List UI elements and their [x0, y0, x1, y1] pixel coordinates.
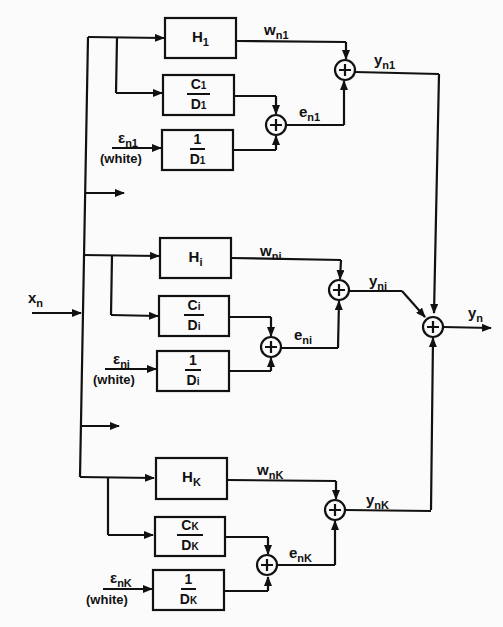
white-note-1: (white) [100, 152, 142, 165]
e-label-K: enK [289, 545, 312, 561]
y-label-K: ynK [366, 492, 389, 508]
output-arrow [443, 327, 491, 328]
block-inv-DK-label: 1DK [153, 572, 224, 606]
w-label-i: wni [260, 243, 281, 259]
output-label: yn [468, 305, 483, 321]
w-label-K: wnK [257, 462, 283, 478]
y-label-1: yn1 [374, 52, 395, 68]
block-inv-D1-label: 1D1 [162, 132, 233, 166]
e-label-1: en1 [299, 104, 320, 120]
noise-label-K: εnK [110, 570, 132, 586]
noise-label-1: εn1 [118, 130, 138, 146]
noise-label-i: εni [113, 351, 130, 367]
block-inv-Di-label: 1Di [157, 353, 229, 387]
input-bus [80, 37, 88, 477]
block-CK-DK-label: CKDK [155, 518, 225, 552]
block-diagram: xn yn H1 C1D1 1D1 εn1 (white) wn1 en1 yn… [0, 0, 503, 627]
block-Ci-Di-label: CiDi [159, 298, 229, 332]
y-label-i: yni [369, 273, 387, 289]
input-label: xn [28, 290, 43, 306]
w-label-1: wn1 [264, 22, 289, 38]
e-label-i: eni [294, 327, 312, 343]
block-C1-D1-label: C1D1 [163, 77, 234, 111]
block-HK-label: HK [156, 468, 227, 486]
white-note-i: (white) [93, 373, 135, 386]
diagram-wiring [0, 0, 503, 627]
white-note-K: (white) [86, 593, 128, 606]
block-Hi-label: Hi [160, 248, 231, 266]
block-H1-label: H1 [165, 28, 236, 46]
